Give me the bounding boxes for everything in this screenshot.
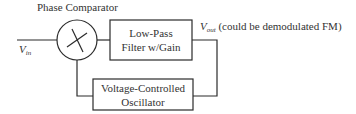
input-label: Vin (19, 43, 31, 57)
output-subscript: out (207, 26, 216, 34)
vco-to-comparator-line (77, 60, 93, 96)
low-pass-filter-text: Low-Pass Filter w/Gain (110, 26, 192, 54)
multiplier-x-icon (67, 29, 87, 52)
vco-line2: Oscillator (93, 95, 193, 109)
lpf-line1: Low-Pass (110, 26, 192, 40)
input-symbol: V (19, 43, 26, 55)
output-symbol: V (200, 20, 207, 32)
vco-text: Voltage-Controlled Oscillator (93, 81, 193, 109)
output-note: (could be demodulated FM) (218, 20, 341, 32)
lpf-line2: Filter w/Gain (110, 40, 192, 54)
vco-line1: Voltage-Controlled (93, 81, 193, 95)
phase-comparator-label: Phase Comparator (37, 1, 118, 13)
output-label: Vout (could be demodulated FM) (200, 20, 342, 34)
input-subscript: in (26, 49, 31, 57)
output-feedback-line (192, 40, 217, 96)
